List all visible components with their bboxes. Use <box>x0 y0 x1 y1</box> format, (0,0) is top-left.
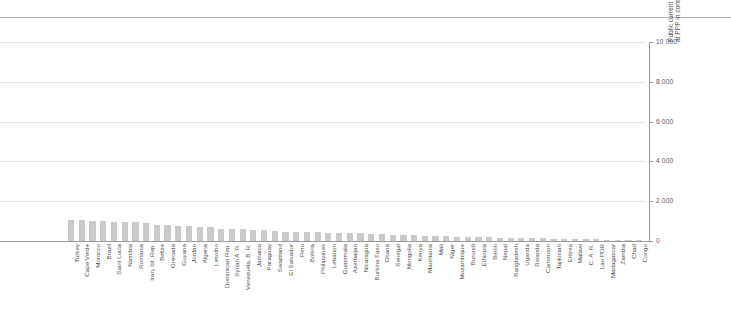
x-category-label: Jamaica <box>256 244 262 316</box>
y-tick-label: 8 000 <box>656 78 673 85</box>
x-category-label-text: Mozambique <box>459 244 465 279</box>
x-category-label: Cameroon <box>545 244 551 316</box>
x-category-label: Ghana <box>384 244 390 316</box>
x-category-label: Mali <box>438 244 444 316</box>
x-category-label: El Salvador <box>288 244 294 316</box>
x-category-label: Lesotho <box>213 244 219 316</box>
x-category-label-text: Paraguay <box>266 244 272 271</box>
x-category-label-text: Burkina Faso <box>374 244 380 280</box>
x-category-label-text: Zambia <box>620 244 626 265</box>
y-axis-title-text: Public current expenditure on primary ed… <box>667 0 682 42</box>
bar <box>240 229 246 241</box>
x-category-label-text: Guyana <box>181 244 187 266</box>
x-category-label-text: Jordan <box>191 244 197 263</box>
x-category-label-text: Philippines <box>320 244 326 274</box>
x-category-label: Congo <box>642 244 648 316</box>
bar <box>250 230 256 241</box>
bar <box>347 233 353 241</box>
bar <box>186 226 192 241</box>
x-category-label-text: Saint Lucia <box>116 244 122 275</box>
x-category-label: Algeria <box>202 244 208 316</box>
x-category-label: Bolivia <box>309 244 315 316</box>
x-category-label-text: Brazil <box>106 244 112 259</box>
x-category-label: Zambia <box>620 244 626 316</box>
x-category-label-text: Romania <box>138 244 144 269</box>
x-category-label-text: Bangladesh <box>513 244 519 277</box>
x-category-label: Chad <box>631 244 637 316</box>
x-category-label: Morocco <box>95 244 101 316</box>
x-axis-line <box>0 241 649 242</box>
x-category-label: Grenada <box>170 244 176 316</box>
x-category-label: Tajikistan <box>556 244 562 316</box>
y-tick-mark <box>649 161 653 162</box>
y-tick-mark <box>649 201 653 202</box>
x-category-label-text: Eritrea <box>567 244 573 262</box>
x-category-label-text: C. A. R. <box>588 244 594 265</box>
bar <box>164 225 170 241</box>
x-category-label: Lebanon <box>331 244 337 316</box>
x-category-label: Azerbaijan <box>352 244 358 316</box>
x-category-label: Belize <box>159 244 165 316</box>
bar <box>197 227 203 241</box>
x-category-label-text: Niger <box>449 244 455 259</box>
x-category-label: Jordan <box>191 244 197 316</box>
x-category-label-text: El Salvador <box>288 244 294 276</box>
bar <box>229 229 235 241</box>
x-category-label: Swaziland <box>277 244 283 316</box>
y-tick-label: 0 <box>656 237 660 244</box>
x-category-label: Eritrea <box>567 244 573 316</box>
x-category-label-text: Dominican Rep. <box>224 244 230 288</box>
y-tick-label: 2 000 <box>656 197 673 204</box>
bar <box>282 232 288 241</box>
y-tick-mark <box>649 241 653 242</box>
x-category-label-text: Kenya <box>417 244 423 262</box>
x-category-label-text: Mali <box>438 244 444 255</box>
x-category-label-text: Burundi <box>470 244 476 265</box>
x-category-label: Romania <box>138 244 144 316</box>
y-axis-title: Public current expenditure on primary ed… <box>667 0 681 42</box>
x-category-label: C. A. R. <box>588 244 594 316</box>
x-category-label-text: Senegal <box>395 244 401 267</box>
bar <box>122 222 128 241</box>
x-category-label-text: Turkey <box>74 244 80 263</box>
y-tick-mark <box>649 82 653 83</box>
x-category-label: Namibia <box>127 244 133 316</box>
x-category-label: Saint Lucia <box>116 244 122 316</box>
x-category-label: Benin <box>492 244 498 316</box>
x-category-label: Madagascar <box>610 244 616 316</box>
x-category-label-text: Rwanda <box>534 244 540 267</box>
bar <box>368 234 374 241</box>
x-category-label-text: Lebanon <box>331 244 337 268</box>
x-category-label: Turkey <box>74 244 80 316</box>
bar <box>315 232 321 241</box>
x-category-label: Lao PDR <box>599 244 605 316</box>
x-category-label: Nepal <box>502 244 508 316</box>
x-category-label-text: Madagascar <box>610 244 616 278</box>
bar <box>111 222 117 242</box>
bar <box>272 231 278 241</box>
bar <box>89 221 95 241</box>
x-category-label-text: Mauritania <box>427 244 433 273</box>
x-category-label: Bangladesh <box>513 244 519 316</box>
x-category-label-text: Nepal <box>502 244 508 260</box>
x-category-label: Brazil <box>106 244 112 316</box>
x-category-label: Niger <box>449 244 455 316</box>
x-category-label-text: Chad <box>631 244 637 259</box>
x-category-label: Peru <box>299 244 305 316</box>
x-category-label-text: Congo <box>642 244 648 262</box>
x-category-label: Venezuela, B. R. <box>245 244 251 316</box>
x-category-label-text: Swaziland <box>277 244 283 272</box>
x-category-label-text: Belize <box>159 244 165 261</box>
x-category-label-text: Tajikistan <box>556 244 562 269</box>
x-category-label-text: Morocco <box>95 244 101 268</box>
bar <box>79 220 85 241</box>
x-category-label-text: Algeria <box>202 244 208 263</box>
x-category-label-text: Cape Verde <box>84 244 90 277</box>
bar <box>336 233 342 241</box>
x-category-label: Mauritania <box>427 244 433 316</box>
bar <box>325 233 331 241</box>
bar <box>357 233 363 241</box>
x-category-label: Iran, Isl. Rep. <box>149 244 155 316</box>
x-category-label-text: Mongolia <box>406 244 412 269</box>
x-category-label: Paraguay <box>266 244 272 316</box>
